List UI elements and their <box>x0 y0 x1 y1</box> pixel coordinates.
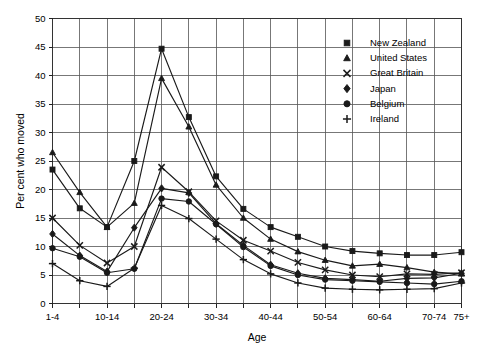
x-tick-label: 50-54 <box>313 311 337 322</box>
line-chart: 05101520253035404550 1-410-1420-2430-344… <box>0 0 484 354</box>
marker-square <box>50 167 55 172</box>
x-axis-title: Age <box>248 331 267 343</box>
x-tick-label: 30-34 <box>204 311 228 322</box>
x-tick-label: 75+ <box>453 311 470 322</box>
marker-square <box>459 250 464 255</box>
legend-item-label: Japan <box>370 83 396 94</box>
marker-square <box>186 115 191 120</box>
x-tick-label: 20-24 <box>149 311 173 322</box>
y-tick-label: 35 <box>35 98 46 109</box>
y-tick-label: 45 <box>35 41 46 52</box>
marker-circle <box>159 196 165 202</box>
y-tick-label: 10 <box>35 241 46 252</box>
marker-square <box>295 234 300 239</box>
x-tick-label: 40-44 <box>258 311 282 322</box>
y-tick-label: 15 <box>35 212 46 223</box>
marker-square <box>432 253 437 258</box>
marker-square <box>132 159 137 164</box>
legend-item-label: Ireland <box>370 113 399 124</box>
marker-circle <box>241 244 247 250</box>
marker-square <box>404 253 409 258</box>
y-tick-label: 0 <box>40 298 45 309</box>
marker-square <box>241 206 246 211</box>
marker-circle <box>322 277 328 283</box>
x-tick-label: 10-14 <box>95 311 119 322</box>
legend-item-label: Belgium <box>370 98 404 109</box>
marker-circle <box>104 270 110 276</box>
marker-square <box>350 249 355 254</box>
marker-circle <box>344 101 350 107</box>
legend-item-label: Great Britain <box>370 67 423 78</box>
x-tick-label: 60-64 <box>368 311 392 322</box>
marker-square <box>323 244 328 249</box>
x-tick-label: 70-74 <box>422 311 446 322</box>
legend-item-label: New Zealand <box>370 37 426 48</box>
y-tick-label: 20 <box>35 184 46 195</box>
y-tick-label: 5 <box>40 269 45 280</box>
y-tick-label: 25 <box>35 155 46 166</box>
marker-circle <box>377 279 383 285</box>
marker-square <box>344 40 350 46</box>
marker-circle <box>350 278 356 284</box>
marker-circle <box>50 245 56 251</box>
marker-circle <box>404 280 410 286</box>
y-tick-label: 30 <box>35 127 46 138</box>
marker-circle <box>213 222 219 228</box>
marker-circle <box>186 199 192 205</box>
chart-container: 05101520253035404550 1-410-1420-2430-344… <box>0 0 484 354</box>
marker-square <box>268 225 273 230</box>
legend-item-label: United States <box>370 52 427 63</box>
marker-square <box>214 174 219 179</box>
marker-square <box>159 46 164 51</box>
x-tick-label: 1-4 <box>46 311 60 322</box>
y-tick-label: 50 <box>35 13 46 24</box>
marker-circle <box>295 272 301 278</box>
marker-square <box>77 206 82 211</box>
y-axis-title: Per cent who moved <box>14 113 26 209</box>
marker-circle <box>268 263 274 269</box>
y-tick-label: 40 <box>35 70 46 81</box>
marker-square <box>377 251 382 256</box>
marker-circle <box>77 254 83 260</box>
